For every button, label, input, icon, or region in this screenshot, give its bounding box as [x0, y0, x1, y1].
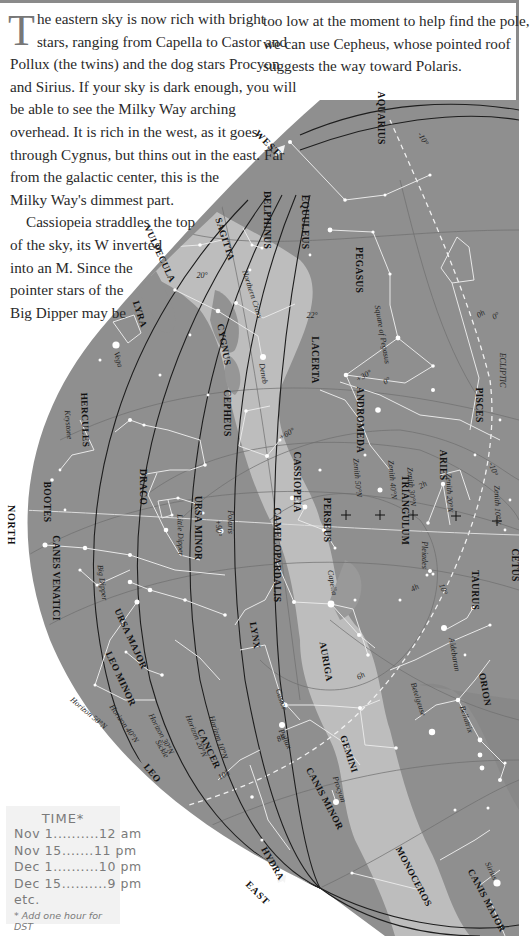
- text-line: Big Dipper may be: [10, 302, 262, 325]
- annotation-label: Zenith 10°N: [492, 485, 502, 525]
- text-line: Milky Way's dimmest part.: [10, 189, 262, 212]
- aldebaran-star: [441, 625, 447, 631]
- text-line: too low at the moment to help find the p…: [263, 10, 513, 33]
- constellation-label: DRACO: [138, 469, 148, 505]
- drop-cap: T: [8, 12, 35, 50]
- annotation-label: Zenith 20°N: [444, 473, 454, 513]
- constellation-label: CANES VENATICI: [51, 535, 61, 620]
- constellation-label: CAMELOPARDALIS: [272, 508, 282, 603]
- time-etc: etc.: [6, 892, 120, 909]
- constellation-label: EQUULEUS: [300, 195, 310, 250]
- direction-north: NORTH: [6, 505, 17, 545]
- capella-star: [328, 601, 335, 608]
- constellation-label: CETUS: [510, 548, 519, 581]
- constellation-label: LACERTA: [310, 336, 320, 384]
- dst-note: * Add one hour for DST: [6, 910, 120, 932]
- text-line: and Sirius. If your sky is dark enough, …: [10, 76, 262, 99]
- text-line: from the galactic center, this is the: [10, 166, 262, 189]
- time-table: TIME* Nov 1..........12 am Nov 15.......…: [6, 806, 120, 924]
- text-line: into an M. Since the: [10, 257, 262, 280]
- constellation-label: AQUARIUS: [376, 91, 386, 144]
- text-line: Cassiopeia straddles the top: [10, 211, 262, 234]
- constellation-label: TAURUS: [470, 570, 480, 610]
- star-label: Polaris: [226, 509, 235, 534]
- constellation-label: PEGASUS: [354, 247, 364, 293]
- text-line: he eastern sky is now rich with bright: [10, 8, 262, 31]
- article-text-right: too low at the moment to help find the p…: [263, 10, 513, 78]
- text-line: pointer stars of the: [10, 279, 262, 302]
- bellatrix-star: [456, 698, 461, 703]
- constellation-label: CASSIOPEIA: [292, 451, 302, 512]
- time-row: Nov 1..........12 am: [6, 826, 120, 843]
- sirius-star: [493, 879, 500, 886]
- deneb-star: [260, 354, 266, 360]
- text-line: Pollux (the twins) and the dog stars Pro…: [10, 53, 262, 76]
- article-text-left: T he eastern sky is now rich with bright…: [10, 8, 262, 324]
- time-table-title: TIME*: [6, 811, 120, 826]
- text-line: stars, ranging from Capella to Castor an…: [10, 31, 262, 54]
- time-row: Nov 15.......11 pm: [6, 843, 120, 860]
- constellation-label: DELPHINUS: [262, 191, 272, 249]
- time-row: Dec 15..........9 pm: [6, 876, 120, 893]
- text-line: overhead. It is rich in the west, as it …: [10, 121, 262, 144]
- vega-star: [112, 341, 119, 348]
- text-line: through Cygnus, but thins out in the eas…: [10, 144, 262, 167]
- constellation-label: CEPHEUS: [222, 390, 232, 437]
- text-line: be able to see the Milky Way arching: [10, 98, 262, 121]
- text-line: we can use Cepheus, whose pointed roof: [263, 33, 513, 56]
- constellation-label: URSA MINOR: [193, 496, 203, 561]
- star-label: Pleiades: [420, 540, 429, 569]
- degree-label: +90°: [214, 520, 223, 537]
- text-line: of the sky, its W inverted: [10, 234, 262, 257]
- constellation-label: HERCULES: [79, 392, 91, 447]
- direction-east: EAST: [244, 879, 273, 908]
- betelgeuse-star: [429, 729, 435, 735]
- time-row: Dec 1..........10 pm: [6, 859, 120, 876]
- constellation-label: PERSEUS: [322, 498, 332, 543]
- annotation-label: ECLIPTIC: [498, 352, 507, 388]
- text-line: suggests the way toward Polaris.: [263, 55, 513, 78]
- constellation-label: PISCES: [474, 387, 484, 422]
- degree-label: 22°: [306, 311, 318, 320]
- constellation-label: ANDROMEDA: [355, 387, 365, 454]
- annotation-label: Little Dipper: [175, 513, 186, 557]
- constellation-label: BOOTES: [42, 482, 52, 523]
